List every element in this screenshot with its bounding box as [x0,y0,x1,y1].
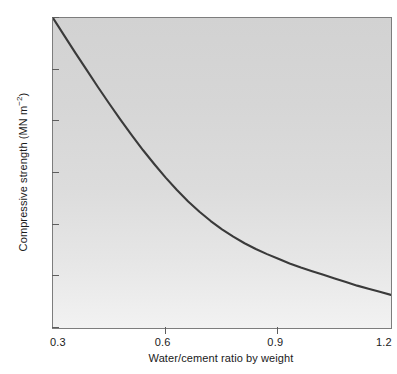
y-axis-tick [52,224,59,225]
x-axis-ticklabel: 0.6 [155,336,171,348]
y-axis-tick [52,120,59,121]
x-axis-title: Water/cement ratio by weight [52,352,390,364]
y-axis-title-tail: ) [17,93,29,97]
x-axis-tick [277,327,278,334]
data-curve-compressive-strength [53,18,391,295]
x-axis-ticklabel: 1.2 [376,336,392,348]
y-axis-title-exponent: −2 [15,96,24,105]
x-axis-ticklabel: 0.3 [50,336,66,348]
x-axis-tick [165,327,166,334]
chart-figure: 0102030405060 0.30.60.91.2 Water/cement … [0,0,397,374]
y-axis-title-main: Compressive strength (MN m [17,106,29,252]
y-axis-tick [52,172,59,173]
x-axis-ticklabel: 0.9 [267,336,283,348]
x-axis-ticklabels: 0.30.60.91.2 [0,336,397,352]
curve-svg [53,18,391,328]
y-axis-tick [52,69,59,70]
plot-area [52,17,392,329]
y-axis-tick [52,17,59,18]
y-axis-tick [52,327,59,328]
y-axis-tick [52,275,59,276]
y-axis-title: Compressive strength (MN m−2) [17,17,34,327]
